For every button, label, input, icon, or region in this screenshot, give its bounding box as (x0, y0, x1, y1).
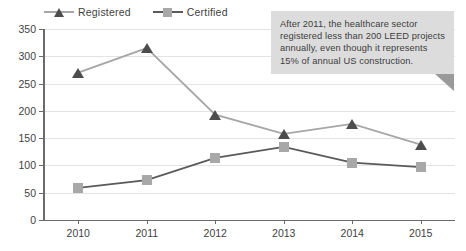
y-axis-tick (39, 220, 44, 221)
callout-line-1: After 2011, the healthcare sector (280, 18, 446, 30)
x-axis-tick-label: 2013 (272, 227, 295, 239)
y-axis-tick-label: 50 (24, 187, 36, 199)
data-point-certified-2012 (210, 153, 220, 163)
callout-line-2: registered less than 200 LEED projects (280, 30, 446, 42)
y-axis-tick (39, 56, 44, 57)
y-axis-tick-label: 200 (18, 105, 36, 117)
y-axis-tick (39, 111, 44, 112)
data-point-registered-2015 (415, 140, 427, 150)
data-point-registered-2014 (346, 119, 358, 129)
callout-line-4: 15% of annual US construction. (280, 55, 446, 67)
y-axis-tick-label: 300 (18, 50, 36, 62)
callout-line-3: annually, even though it represents (280, 42, 446, 54)
y-axis-tick-label: 250 (18, 78, 36, 90)
callout-tail-icon (435, 74, 454, 91)
x-axis-tick (352, 220, 353, 224)
y-axis-tick (39, 138, 44, 139)
line-chart: Registered Certified 0501001502002503003… (0, 0, 466, 251)
data-point-certified-2011 (142, 175, 152, 185)
data-point-registered-2013 (278, 129, 290, 139)
y-axis-tick (39, 165, 44, 166)
data-point-registered-2012 (209, 110, 221, 120)
legend-line-certified (153, 7, 183, 17)
data-point-certified-2010 (73, 183, 83, 193)
x-axis-tick (78, 220, 79, 224)
x-axis-tick (284, 220, 285, 224)
y-axis-tick (39, 29, 44, 30)
x-axis-tick (215, 220, 216, 224)
y-axis-tick-label: 0 (30, 214, 36, 226)
square-marker-icon (163, 8, 172, 17)
data-point-certified-2015 (416, 162, 426, 172)
chart-legend: Registered Certified (44, 2, 228, 22)
y-axis-tick (39, 193, 44, 194)
x-axis-tick-label: 2010 (67, 227, 90, 239)
line-certified (78, 147, 421, 188)
data-point-certified-2013 (279, 142, 289, 152)
x-axis-tick-label: 2015 (409, 227, 432, 239)
x-axis-tick-label: 2011 (135, 227, 158, 239)
x-axis-tick-label: 2012 (204, 227, 227, 239)
legend-item-registered[interactable]: Registered (44, 6, 131, 18)
y-axis-tick (39, 84, 44, 85)
data-point-registered-2010 (72, 68, 84, 78)
callout-annotation: After 2011, the healthcare sector regist… (271, 11, 454, 74)
legend-item-certified[interactable]: Certified (153, 6, 228, 18)
legend-label-registered: Registered (78, 6, 131, 18)
x-axis-tick-label: 2014 (341, 227, 364, 239)
legend-label-certified: Certified (187, 6, 228, 18)
data-point-registered-2011 (141, 43, 153, 53)
y-axis-tick-label: 100 (18, 159, 36, 171)
y-axis-tick-label: 350 (18, 23, 36, 35)
x-axis-tick (421, 220, 422, 224)
x-axis-tick (147, 220, 148, 224)
data-point-certified-2014 (347, 158, 357, 168)
triangle-marker-icon (54, 8, 64, 17)
legend-line-registered (44, 7, 74, 17)
y-axis-tick-label: 150 (18, 132, 36, 144)
